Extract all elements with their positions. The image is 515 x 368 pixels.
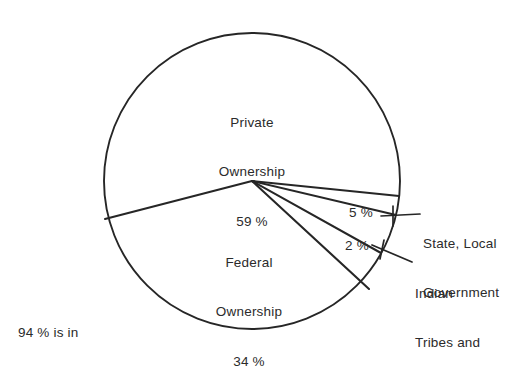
- slice-label-federal: Federal Ownership 34 %: [183, 222, 315, 368]
- slice-label-federal-line2: Ownership: [183, 304, 315, 320]
- slice-label-federal-line1: Federal: [183, 255, 315, 271]
- slice-label-private-line2: Ownership: [186, 164, 318, 180]
- slice-label-private-line1: Private: [186, 115, 318, 131]
- callout-label-indian-line2: Tribes and: [415, 335, 515, 351]
- slice-value-indian: 2 %: [345, 238, 369, 254]
- chart-footnote: 94 % is in the 11 Westernmost States and…: [18, 288, 198, 368]
- leader-line-state: [381, 214, 420, 216]
- callout-label-state-line1: State, Local: [423, 236, 515, 252]
- chart-footnote-line1: 94 % is in: [18, 324, 198, 342]
- slice-value-state: 5 %: [349, 205, 373, 221]
- callout-label-indian-line1: Indian: [415, 286, 515, 302]
- slice-value-federal: 34 %: [183, 354, 315, 368]
- pie-chart: Private Ownership 59 % Federal Ownership…: [0, 0, 515, 368]
- callout-label-indian: Indian Tribes and Individuals: [415, 253, 515, 368]
